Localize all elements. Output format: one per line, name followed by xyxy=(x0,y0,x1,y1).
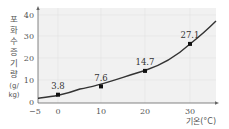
data-label-20: 14.7 xyxy=(136,57,155,67)
svg-text:포: 포 xyxy=(10,14,18,24)
y-tick-10: 10 xyxy=(24,76,34,85)
y-axis-label: 포 화 수 증 기 량 (g/ kg) xyxy=(8,14,19,99)
x-tick-neg5: −5 xyxy=(29,107,41,116)
data-point-10 xyxy=(99,84,103,88)
chart-svg: 0 10 20 30 40 −5 0 10 20 30 기온(°C) 포 화 수… xyxy=(0,0,229,129)
svg-text:(g/: (g/ xyxy=(9,82,19,90)
data-point-30 xyxy=(188,42,192,46)
y-tick-0: 0 xyxy=(29,98,34,107)
data-label-10: 7.6 xyxy=(94,73,108,83)
svg-text:기: 기 xyxy=(10,58,18,68)
data-point-0 xyxy=(56,93,60,97)
svg-text:량: 량 xyxy=(10,69,18,79)
x-tick-10: 10 xyxy=(96,107,106,116)
svg-text:수: 수 xyxy=(10,36,18,46)
x-tick-0: 0 xyxy=(55,107,60,116)
data-point-20 xyxy=(143,69,147,73)
svg-text:kg): kg) xyxy=(8,91,19,99)
svg-text:화: 화 xyxy=(10,25,18,35)
data-label-0: 3.8 xyxy=(51,81,65,91)
x-tick-20: 20 xyxy=(140,107,150,116)
y-tick-30: 30 xyxy=(24,32,34,41)
y-tick-20: 20 xyxy=(24,54,34,63)
x-axis-label: 기온(°C) xyxy=(186,117,216,126)
y-tick-40: 40 xyxy=(24,11,34,20)
data-label-30: 27.1 xyxy=(181,30,200,40)
saturation-vapor-chart: 0 10 20 30 40 −5 0 10 20 30 기온(°C) 포 화 수… xyxy=(0,0,229,129)
svg-text:증: 증 xyxy=(10,47,18,57)
x-tick-30: 30 xyxy=(185,107,195,116)
x-axis-arrow-icon xyxy=(215,101,219,104)
